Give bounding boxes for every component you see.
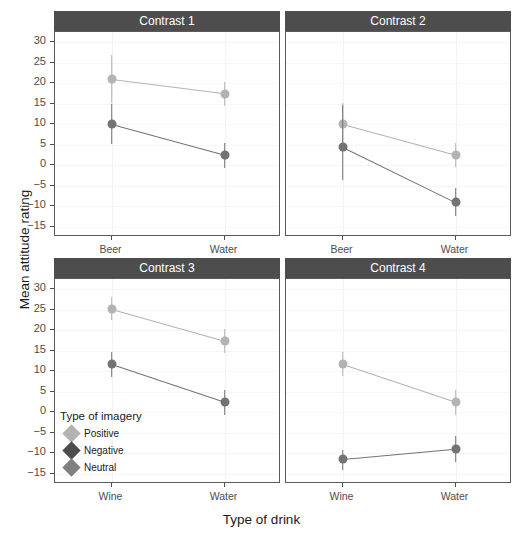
gridline-y-minor — [55, 289, 279, 290]
gridline-y-minor — [286, 289, 510, 290]
y-axis-tick — [50, 123, 54, 124]
gridline-y-minor — [286, 83, 510, 84]
legend-title: Type of imagery — [60, 410, 142, 422]
y-axis-tick-label: −10 — [12, 198, 46, 210]
y-axis-tick — [50, 473, 54, 474]
gridline-y-minor — [286, 124, 510, 125]
legend-item-negative[interactable]: Negative — [60, 442, 142, 459]
gridline-y-minor — [55, 83, 279, 84]
x-axis-tick — [342, 236, 343, 240]
gridline-y-minor — [286, 330, 510, 331]
gridline-y-minor — [55, 165, 279, 166]
series-line — [111, 309, 224, 342]
series-line — [342, 147, 455, 203]
gridline-x — [225, 279, 226, 482]
y-axis-tick-label: −5 — [12, 178, 46, 190]
y-axis-tick — [50, 309, 54, 310]
y-axis-tick-label: 5 — [12, 384, 46, 396]
panel-contrast-4 — [285, 278, 511, 483]
legend-key-positive-icon — [62, 424, 80, 442]
gridline-y-minor — [55, 227, 279, 228]
y-axis-tick — [50, 164, 54, 165]
legend-item-positive[interactable]: Positive — [60, 425, 142, 442]
y-axis-tick-label: 15 — [12, 96, 46, 108]
x-axis-tick — [111, 483, 112, 487]
gridline-y-minor — [286, 165, 510, 166]
data-point[interactable] — [451, 151, 460, 160]
data-point[interactable] — [338, 142, 347, 151]
y-axis-tick — [50, 185, 54, 186]
data-point[interactable] — [107, 75, 116, 84]
panel-contrast-2 — [285, 31, 511, 236]
x-axis-tick-label: Wine — [307, 490, 377, 502]
gridline-x — [225, 32, 226, 235]
facet-strip-contrast-1: Contrast 1 — [54, 11, 280, 31]
legend-item-neutral[interactable]: Neutral — [60, 459, 142, 476]
facet-strip-contrast-2: Contrast 2 — [285, 11, 511, 31]
y-axis-tick — [50, 452, 54, 453]
y-axis-tick-label: 30 — [12, 34, 46, 46]
facet-label: Contrast 1 — [139, 14, 194, 28]
y-axis-tick — [50, 144, 54, 145]
gridline-y-minor — [286, 145, 510, 146]
x-axis-tick-label: Water — [420, 490, 490, 502]
panel-contrast-1 — [54, 31, 280, 236]
gridline-y-minor — [286, 186, 510, 187]
gridline-y-minor — [55, 104, 279, 105]
data-point[interactable] — [451, 198, 460, 207]
gridline-y-minor — [55, 145, 279, 146]
gridline-y-minor — [286, 63, 510, 64]
y-axis-tick — [50, 288, 54, 289]
gridline-y-minor — [55, 186, 279, 187]
gridline-y-minor — [286, 206, 510, 207]
y-axis-tick-label: −5 — [12, 425, 46, 437]
y-axis-tick-label: 0 — [12, 404, 46, 416]
legend-key-neutral-icon — [62, 458, 80, 476]
gridline-y-minor — [286, 412, 510, 413]
facet-label: Contrast 4 — [370, 261, 425, 275]
gridline-y-minor — [55, 371, 279, 372]
data-point[interactable] — [107, 120, 116, 129]
data-point[interactable] — [220, 336, 229, 345]
y-axis-tick-label: 10 — [12, 363, 46, 375]
series-line — [111, 79, 224, 94]
gridline-y-minor — [55, 42, 279, 43]
data-point[interactable] — [451, 398, 460, 407]
y-axis-tick — [50, 205, 54, 206]
data-point[interactable] — [220, 151, 229, 160]
legend-label: Negative — [84, 445, 123, 456]
legend-key-negative-icon — [62, 441, 80, 459]
y-axis-tick-label: 5 — [12, 137, 46, 149]
gridline-y-minor — [286, 351, 510, 352]
gridline-y-minor — [55, 351, 279, 352]
series-line — [343, 449, 456, 460]
y-axis-tick-label: 25 — [12, 55, 46, 67]
y-axis-tick-label: 10 — [12, 116, 46, 128]
gridline-y-minor — [55, 310, 279, 311]
gridline-y-minor — [286, 474, 510, 475]
gridline-y-minor — [55, 392, 279, 393]
x-axis-tick-label: Wine — [76, 490, 146, 502]
data-point[interactable] — [220, 89, 229, 98]
data-point[interactable] — [220, 398, 229, 407]
legend-label: Neutral — [84, 462, 116, 473]
y-axis-tick-label: 20 — [12, 75, 46, 87]
data-point[interactable] — [451, 445, 460, 454]
data-point[interactable] — [107, 360, 116, 369]
data-point[interactable] — [338, 455, 347, 464]
facet-strip-contrast-3: Contrast 3 — [54, 258, 280, 278]
y-axis-tick-label: −15 — [12, 219, 46, 231]
x-axis-tick-label: Water — [189, 243, 259, 255]
data-point[interactable] — [107, 304, 116, 313]
gridline-y-minor — [286, 104, 510, 105]
data-point[interactable] — [338, 360, 347, 369]
y-axis-tick — [50, 82, 54, 83]
x-axis-tick-label: Beer — [76, 243, 146, 255]
facet-label: Contrast 3 — [139, 261, 194, 275]
gridline-y-minor — [286, 310, 510, 311]
y-axis-tick — [50, 432, 54, 433]
y-axis-tick — [50, 411, 54, 412]
facet-label: Contrast 2 — [370, 14, 425, 28]
series-line — [342, 124, 455, 156]
y-axis-tick — [50, 329, 54, 330]
